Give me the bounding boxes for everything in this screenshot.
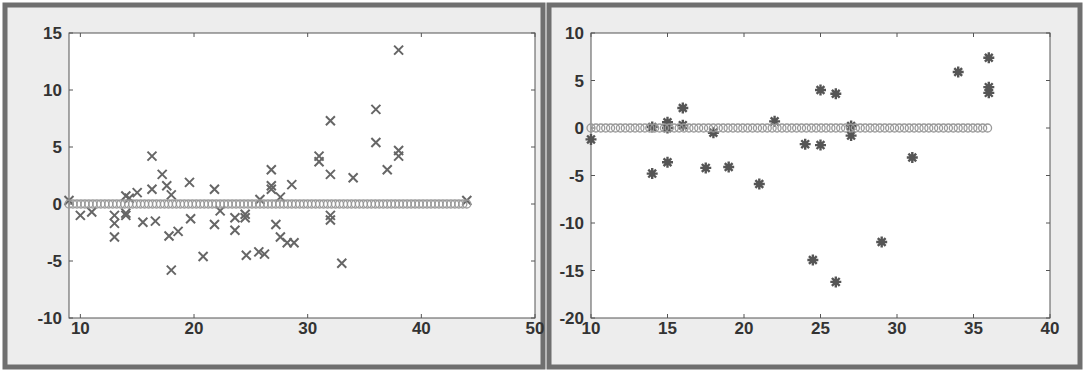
x-tick-label: 10 bbox=[71, 319, 90, 338]
x-tick-label: 35 bbox=[964, 319, 983, 338]
x-tick-label: 15 bbox=[658, 319, 677, 338]
asterisk-marker bbox=[800, 139, 811, 150]
asterisk-marker bbox=[700, 162, 711, 173]
right-plot: 1050-5-10-15-2010152025303540 bbox=[559, 24, 1059, 338]
x-tick-label: 25 bbox=[811, 319, 830, 338]
x-tick-label: 40 bbox=[412, 319, 431, 338]
x-tick-label: 30 bbox=[298, 319, 317, 338]
asterisk-marker bbox=[983, 87, 994, 98]
x-tick-label: 10 bbox=[582, 319, 601, 338]
y-tick-label: -5 bbox=[47, 252, 62, 271]
asterisk-marker bbox=[953, 66, 964, 77]
plot-area bbox=[591, 33, 1050, 318]
y-tick-label: 5 bbox=[53, 138, 62, 157]
asterisk-marker bbox=[807, 255, 818, 266]
y-tick-label: -10 bbox=[559, 214, 584, 233]
x-tick-label: 40 bbox=[1041, 319, 1060, 338]
asterisk-marker bbox=[815, 85, 826, 96]
y-tick-label: 5 bbox=[575, 72, 584, 91]
asterisk-marker bbox=[647, 168, 658, 179]
asterisk-marker bbox=[830, 276, 841, 287]
y-tick-label: 0 bbox=[53, 195, 62, 214]
asterisk-marker bbox=[907, 152, 918, 163]
x-tick-label: 20 bbox=[735, 319, 754, 338]
asterisk-marker bbox=[662, 157, 673, 168]
x-tick-label: 50 bbox=[526, 319, 545, 338]
x-tick-label: 30 bbox=[888, 319, 907, 338]
y-tick-label: -20 bbox=[559, 309, 584, 328]
asterisk-marker bbox=[876, 237, 887, 248]
y-tick-label: 15 bbox=[43, 24, 62, 43]
asterisk-marker bbox=[983, 52, 994, 63]
left-plot: 151050-5-101020304050 bbox=[37, 24, 544, 338]
asterisk-marker bbox=[815, 140, 826, 151]
y-tick-label: 10 bbox=[565, 24, 584, 43]
asterisk-marker bbox=[754, 179, 765, 190]
asterisk-marker bbox=[830, 88, 841, 99]
asterisk-marker bbox=[586, 134, 597, 145]
y-tick-label: -15 bbox=[559, 262, 584, 281]
plot-area bbox=[69, 33, 535, 318]
asterisk-marker bbox=[677, 103, 688, 114]
y-tick-label: 0 bbox=[575, 119, 584, 138]
y-tick-label: 10 bbox=[43, 81, 62, 100]
figure: 151050-5-1010203040501050-5-10-15-201015… bbox=[0, 0, 1090, 375]
y-tick-label: -5 bbox=[569, 167, 584, 186]
asterisk-marker bbox=[723, 161, 734, 172]
y-tick-label: -10 bbox=[37, 309, 62, 328]
x-tick-label: 20 bbox=[185, 319, 204, 338]
